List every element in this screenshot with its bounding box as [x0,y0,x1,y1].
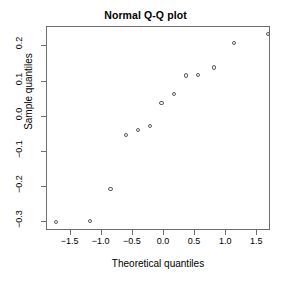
data-point [232,41,236,45]
chart-title: Normal Q-Q plot [0,9,291,21]
x-tick-mark [256,230,257,235]
x-tick-mark [101,230,102,235]
data-point [54,220,58,224]
x-tick-mark [132,230,133,235]
x-tick-mark [163,230,164,235]
plot-area [46,26,270,230]
data-point [196,73,200,77]
y-axis-title: Sample quantiles [23,12,34,172]
x-tick-mark [225,230,226,235]
x-tick-mark [70,230,71,235]
x-tick-label: 1.5 [236,236,276,246]
scatter-points-layer [47,27,269,229]
x-tick-mark [194,230,195,235]
y-tick-label: −0.2 [14,167,24,201]
data-point [266,32,270,36]
data-point [124,133,128,137]
y-tick-label: −0.3 [14,202,24,236]
data-point [184,73,188,77]
x-axis-title: Theoretical quantiles [46,258,270,269]
data-point [212,65,216,69]
data-point [136,128,140,132]
normal-qq-plot: Normal Q-Q plot 0.20.10.0−0.1−0.2−0.3 −1… [0,0,291,282]
data-point [148,124,152,128]
data-point [108,187,112,191]
data-point [159,101,163,105]
data-point [172,92,176,96]
data-point [88,219,92,223]
